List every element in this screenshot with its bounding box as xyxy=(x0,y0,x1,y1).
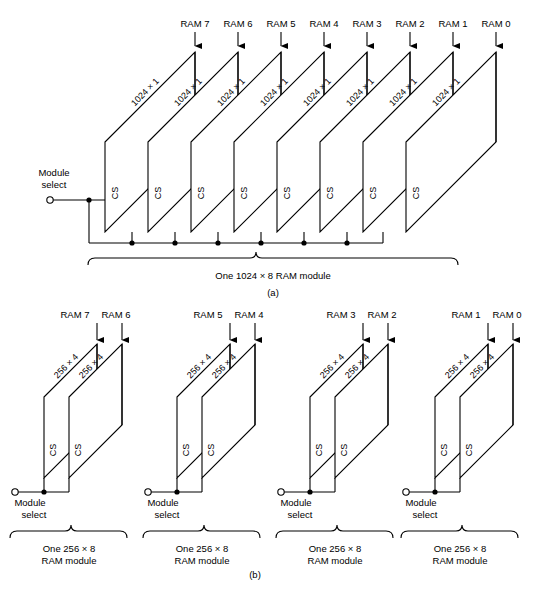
b-module-select-terminal-1[interactable] xyxy=(12,489,18,495)
bus-dot-4 xyxy=(258,240,263,245)
ram-label-6: RAM 6 xyxy=(223,18,252,29)
b-caption-line2-1: RAM module xyxy=(42,555,97,566)
b-module-select-label-line1-3: Module xyxy=(280,497,311,508)
b-junction-dot-1 xyxy=(41,489,46,494)
ram-label-2: RAM 2 xyxy=(395,18,424,29)
bus-dot-2 xyxy=(172,240,177,245)
ram-label-1: RAM 1 xyxy=(438,18,467,29)
cs-label-ram0: CS xyxy=(411,187,421,200)
b-ram-label-1: RAM 1 xyxy=(451,309,480,320)
b-module-select-label-line1-1: Module xyxy=(14,497,45,508)
cs-label-ram6: CS xyxy=(153,187,163,200)
b-caption-line1-1: One 256 × 8 xyxy=(43,543,96,554)
b-module-select-label-line1-2: Module xyxy=(147,497,178,508)
module-select-label-line2: select xyxy=(42,179,67,190)
b-junction-dot-2 xyxy=(174,489,179,494)
cs-label-ram2: CS xyxy=(325,187,335,200)
ram-label-0: RAM 0 xyxy=(481,18,510,29)
b-cs-label-ram5: CS xyxy=(181,444,191,457)
b-caption-line2-2: RAM module xyxy=(175,555,230,566)
cs-label-ram7: CS xyxy=(110,187,120,200)
b-caption-line2-4: RAM module xyxy=(433,555,488,566)
b-cs-label-ram1: CS xyxy=(439,444,449,457)
b-ram-label-7: RAM 7 xyxy=(60,309,89,320)
b-cs-label-ram3: CS xyxy=(314,444,324,457)
module-select-terminal[interactable] xyxy=(47,197,53,203)
bus-dot-3 xyxy=(215,240,220,245)
part-a-label: (a) xyxy=(267,287,279,298)
b-ram-label-4: RAM 4 xyxy=(234,309,263,320)
b-junction-dot-4 xyxy=(432,489,437,494)
bus-dot-6 xyxy=(344,240,349,245)
bus-dot-5 xyxy=(301,240,306,245)
b-module-select-terminal-4[interactable] xyxy=(403,489,409,495)
b-cs-label-ram2: CS xyxy=(339,444,349,457)
b-ram-label-6: RAM 6 xyxy=(101,309,130,320)
b-caption-line1-2: One 256 × 8 xyxy=(176,543,229,554)
b-module-select-label-line2-4: select xyxy=(413,509,438,520)
b-cs-label-ram0: CS xyxy=(464,444,474,457)
b-ram-label-0: RAM 0 xyxy=(492,309,521,320)
b-ram-label-3: RAM 3 xyxy=(326,309,355,320)
b-module-select-terminal-3[interactable] xyxy=(278,489,284,495)
ram-label-3: RAM 3 xyxy=(352,18,381,29)
ram-label-5: RAM 5 xyxy=(266,18,295,29)
cs-label-ram3: CS xyxy=(282,187,292,200)
b-caption-line2-3: RAM module xyxy=(308,555,363,566)
cs-label-ram1: CS xyxy=(368,187,378,200)
ram-module-figure: RAM 7 RAM 6 RAM 5 RAM 4 RAM 3 RAM 2 RAM … xyxy=(0,0,544,594)
b-ram-label-2: RAM 2 xyxy=(367,309,396,320)
b-cs-label-ram7: CS xyxy=(48,444,58,457)
bus-dot-1 xyxy=(129,240,134,245)
module-select-label-line1: Module xyxy=(38,167,69,178)
b-module-select-label-line2-3: select xyxy=(288,509,313,520)
b-module-select-label-line1-4: Module xyxy=(405,497,436,508)
b-module-select-label-line2-1: select xyxy=(22,509,47,520)
b-cs-label-ram6: CS xyxy=(73,444,83,457)
cs-label-ram4: CS xyxy=(239,187,249,200)
b-module-select-label-line2-2: select xyxy=(155,509,180,520)
b-caption-line1-4: One 256 × 8 xyxy=(434,543,487,554)
figure-canvas: RAM 7 RAM 6 RAM 5 RAM 4 RAM 3 RAM 2 RAM … xyxy=(0,0,544,594)
ram-label-7: RAM 7 xyxy=(180,18,209,29)
part-b-label: (b) xyxy=(249,569,261,580)
b-cs-label-ram4: CS xyxy=(206,444,216,457)
b-caption-line1-3: One 256 × 8 xyxy=(309,543,362,554)
b-module-select-terminal-2[interactable] xyxy=(145,489,151,495)
part-a-caption: One 1024 × 8 RAM module xyxy=(215,270,330,281)
b-ram-label-5: RAM 5 xyxy=(193,309,222,320)
ram-label-4: RAM 4 xyxy=(309,18,338,29)
cs-label-ram5: CS xyxy=(196,187,206,200)
b-junction-dot-3 xyxy=(307,489,312,494)
